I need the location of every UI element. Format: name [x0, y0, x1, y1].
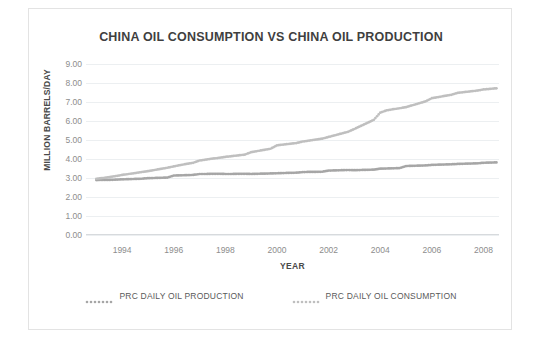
y-axis-tick-label: 5.00 — [42, 135, 82, 145]
legend-entry[interactable]: PRC DAILY OIL CONSUMPTION — [292, 291, 457, 301]
legend-entry[interactable]: PRC DAILY OIL PRODUCTION — [85, 291, 243, 301]
x-axis-title: YEAR — [86, 261, 499, 271]
y-axis-tick-label: 1.00 — [42, 211, 82, 221]
chart-card: CHINA OIL CONSUMPTION VS CHINA OIL PRODU… — [28, 8, 512, 330]
x-axis-tick-label: 2008 — [459, 245, 509, 255]
chart-legend: PRC DAILY OIL PRODUCTIONPRC DAILY OIL CO… — [29, 291, 513, 301]
legend-marker-icon — [85, 292, 113, 300]
x-axis-tick-label: 1998 — [200, 245, 250, 255]
x-axis-tick-label: 1996 — [149, 245, 199, 255]
x-axis-tick-label: 2002 — [304, 245, 354, 255]
series-prc-daily-oil-production — [95, 161, 498, 181]
gridline — [86, 235, 499, 236]
y-axis-tick-label: 6.00 — [42, 116, 82, 126]
legend-label: PRC DAILY OIL CONSUMPTION — [326, 291, 457, 301]
x-axis-tick-label: 1994 — [97, 245, 147, 255]
y-axis-tick-label: 9.00 — [42, 59, 82, 69]
plot-area — [86, 64, 499, 235]
y-axis-tick-label: 4.00 — [42, 154, 82, 164]
x-axis-tick-label: 2004 — [355, 245, 405, 255]
chart-title: CHINA OIL CONSUMPTION VS CHINA OIL PRODU… — [29, 30, 513, 44]
series-prc-daily-oil-consumption — [95, 87, 498, 180]
legend-label: PRC DAILY OIL PRODUCTION — [119, 291, 243, 301]
x-axis-tick-label: 2000 — [252, 245, 302, 255]
y-axis-tick-label: 3.00 — [42, 173, 82, 183]
series-plot — [86, 64, 499, 235]
legend-marker-icon — [292, 292, 320, 300]
y-axis-tick-label: 0.00 — [42, 230, 82, 240]
y-axis-tick-label: 7.00 — [42, 97, 82, 107]
x-axis-tick-label: 2006 — [407, 245, 457, 255]
y-axis-tick-label: 8.00 — [42, 78, 82, 88]
y-axis-tick-labels: 0.001.002.003.004.005.006.007.008.009.00 — [39, 64, 82, 235]
y-axis-tick-label: 2.00 — [42, 192, 82, 202]
x-axis-tick-labels: 19941996199820002002200420062008 — [86, 245, 499, 259]
